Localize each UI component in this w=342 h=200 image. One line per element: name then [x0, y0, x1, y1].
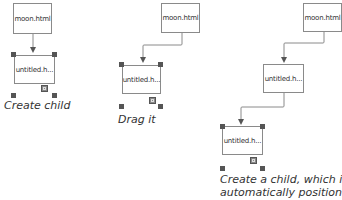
- caption-step2: Drag it: [118, 114, 156, 126]
- point-to-file-icon[interactable]: [149, 97, 156, 104]
- parent-node-step1[interactable]: moon.html: [13, 3, 52, 34]
- caption-step1: Create child: [4, 100, 70, 112]
- point-to-file-icon[interactable]: [41, 85, 48, 92]
- node-label: moon.html: [304, 14, 340, 22]
- resize-handle[interactable]: [260, 124, 265, 129]
- resize-handle[interactable]: [220, 124, 225, 129]
- resize-handle[interactable]: [220, 166, 225, 171]
- parent-node-step2[interactable]: moon.html: [161, 3, 200, 33]
- node-label: untitled.h...: [265, 75, 303, 83]
- resize-handle[interactable]: [119, 104, 124, 109]
- parent-node-step3[interactable]: moon.html: [303, 3, 342, 32]
- caption-step3-line1: Create a child, which is: [220, 174, 342, 186]
- child-node-step2[interactable]: untitled.h...: [122, 65, 161, 94]
- node-label: moon.html: [14, 15, 50, 23]
- point-to-file-icon[interactable]: [250, 157, 257, 164]
- node-label: moon.html: [162, 14, 198, 22]
- resize-handle[interactable]: [11, 93, 16, 98]
- resize-handle[interactable]: [260, 166, 265, 171]
- node-label: untitled.h...: [16, 66, 54, 74]
- resize-handle[interactable]: [158, 62, 163, 67]
- resize-handle[interactable]: [52, 52, 57, 57]
- resize-handle[interactable]: [158, 104, 163, 109]
- child-node-step3[interactable]: untitled.h...: [263, 64, 304, 93]
- child-node-step1[interactable]: untitled.h...: [14, 55, 55, 84]
- grandchild-node-step3[interactable]: untitled.h...: [222, 126, 263, 155]
- node-label: untitled.h...: [224, 137, 262, 145]
- caption-step3-line2: automatically positioned.: [220, 187, 342, 199]
- node-label: untitled.h...: [123, 76, 161, 84]
- resize-handle[interactable]: [119, 62, 124, 67]
- resize-handle[interactable]: [52, 93, 57, 98]
- resize-handle[interactable]: [11, 52, 16, 57]
